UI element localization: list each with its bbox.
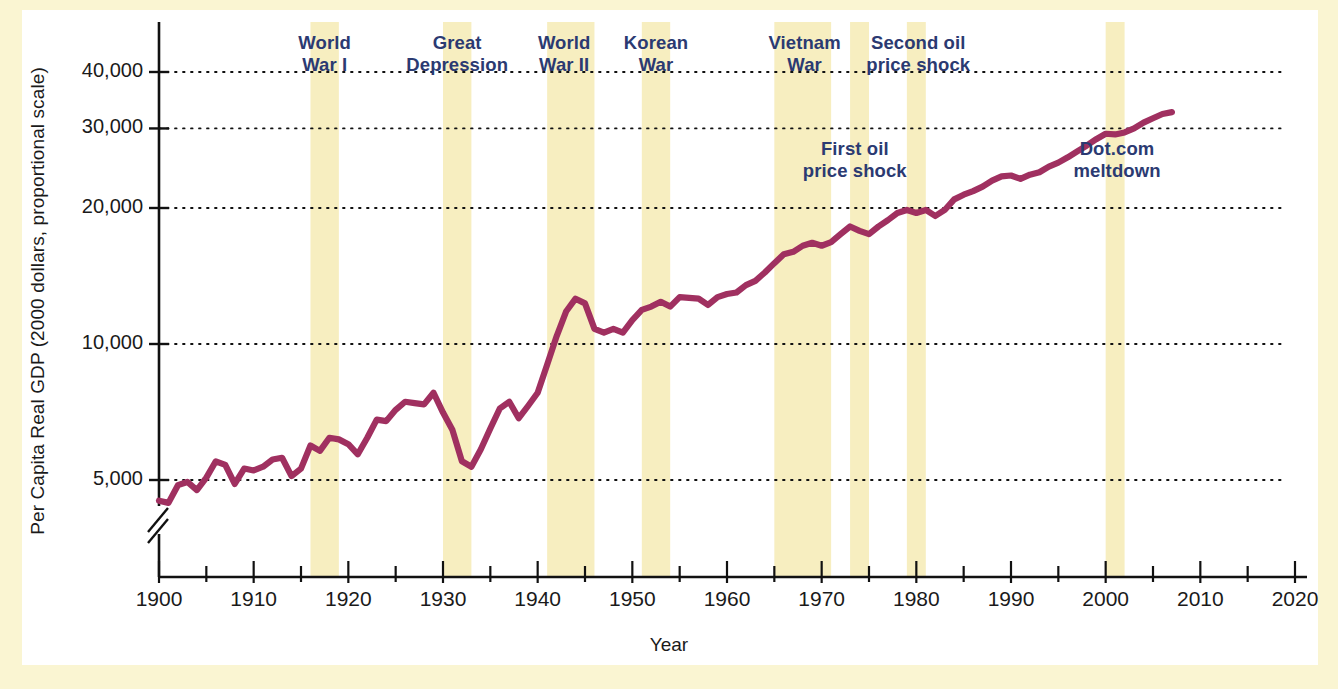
x-tick-label: 2010 [1155, 587, 1245, 611]
y-axis-title: Per Capita Real GDP (2000 dollars, propo… [27, 51, 49, 551]
x-tick-label: 2000 [1061, 587, 1151, 611]
x-tick-label: 1940 [493, 587, 583, 611]
x-axis-title: Year [0, 634, 1338, 656]
chart-canvas [0, 0, 1338, 689]
figure-container: 5,00010,00020,00030,00040,000 1900191019… [0, 0, 1338, 689]
x-tick-label: 1950 [587, 587, 677, 611]
event-band [1106, 22, 1125, 577]
event-band [547, 22, 594, 577]
y-tick-label: 30,000 [82, 115, 143, 138]
y-tick-label: 10,000 [82, 331, 143, 354]
x-tick-label: 1990 [966, 587, 1056, 611]
event-band [774, 22, 831, 577]
annotation-second-oil-price-shock: First oil price shock [765, 138, 945, 182]
x-tick-label: 2020 [1250, 587, 1338, 611]
x-tick-label: 1910 [209, 587, 299, 611]
event-band [907, 22, 926, 577]
annotation-dotcom-meltdown: Dot.com meltdown [1027, 138, 1207, 182]
axis-line [148, 508, 168, 532]
x-tick-label: 1900 [114, 587, 204, 611]
event-band [850, 22, 869, 577]
y-tick-label: 20,000 [82, 195, 143, 218]
y-tick-label: 40,000 [82, 59, 143, 82]
x-tick-label: 1970 [777, 587, 867, 611]
x-tick-label: 1980 [871, 587, 961, 611]
x-tick-label: 1930 [398, 587, 488, 611]
event-band [642, 22, 670, 577]
x-tick-label: 1920 [303, 587, 393, 611]
x-tick-label: 1960 [682, 587, 772, 611]
annotation-first-oil-price-shock: Second oil price shock [828, 32, 1008, 76]
event-band [443, 22, 471, 577]
y-tick-label: 5,000 [93, 467, 143, 490]
event-band [310, 22, 338, 577]
